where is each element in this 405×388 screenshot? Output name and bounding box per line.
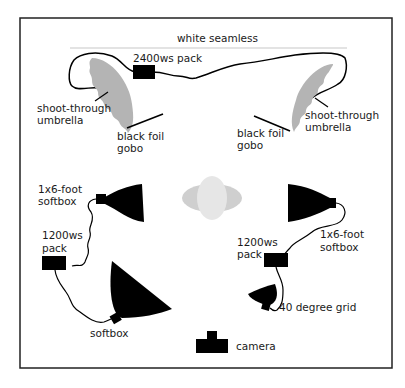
softbox-left-mount	[96, 194, 106, 204]
softbox-left-label-2: softbox	[38, 195, 77, 207]
softbox-right-label-2: softbox	[320, 241, 359, 253]
pack-2400ws	[133, 65, 155, 79]
pack-1200ws-right	[264, 253, 288, 267]
pack-1200ws-left	[42, 256, 66, 270]
gobo-right-label: black foil	[237, 127, 284, 139]
camera-top	[207, 331, 217, 340]
front-softbox-label: softbox	[90, 327, 129, 339]
umbrella-right-label: shoot-through	[305, 109, 379, 121]
pack-left-label: 1200ws	[42, 229, 83, 241]
camera-label: camera	[236, 340, 276, 352]
umbrella-right-label-2: umbrella	[305, 121, 351, 133]
softbox-right-mount	[328, 198, 336, 208]
seamless-label: white seamless	[177, 32, 258, 44]
gobo-left-label: black foil	[117, 130, 164, 142]
gobo-right-label-2: gobo	[237, 139, 263, 151]
main-pack-label: 2400ws pack	[133, 52, 203, 64]
umbrella-left-label-2: umbrella	[37, 114, 83, 126]
subject-head	[197, 176, 227, 220]
pack-right-label: 1200ws	[237, 236, 278, 248]
pack-left-label-2: pack	[42, 242, 68, 254]
softbox-left-label: 1x6-foot	[38, 183, 82, 195]
grid-light-label: 40 degree grid	[279, 301, 356, 313]
lighting-diagram: white seamless 2400ws pack shoot-through…	[0, 0, 405, 388]
camera-body	[196, 339, 228, 353]
umbrella-left-label: shoot-through	[37, 102, 111, 114]
gobo-left-label-2: gobo	[117, 142, 143, 154]
pack-right-label-2: pack	[237, 248, 263, 260]
softbox-right-label: 1x6-foot	[320, 228, 364, 240]
